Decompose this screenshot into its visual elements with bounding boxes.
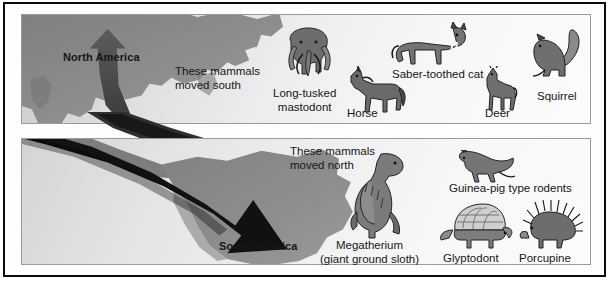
guinea-pig-rodent-icon — [455, 150, 517, 188]
caption-moved-south-line1: These mammals — [175, 65, 260, 77]
label-megatherium-line1: Megatherium — [336, 239, 403, 251]
label-south-america: South America — [219, 240, 298, 253]
squirrel-icon — [525, 24, 583, 84]
figure-frame: North America South America These mammal… — [3, 2, 606, 277]
deer-icon — [475, 66, 519, 114]
label-megatherium: Megatherium (giant ground sloth) — [320, 238, 419, 266]
label-mastodont-line2: mastodont — [273, 100, 336, 114]
megatherium-icon — [345, 150, 415, 240]
horse-icon — [343, 66, 409, 118]
label-glyptodont: Glyptodont — [443, 251, 499, 265]
porcupine-icon — [517, 200, 583, 250]
label-north-america: North America — [63, 51, 140, 64]
label-mastodont-line1: Long-tusked — [273, 87, 336, 99]
caption-moved-south-line2: moved south — [175, 79, 241, 91]
label-long-tusked-mastodont: Long-tusked mastodont — [273, 86, 336, 114]
saber-toothed-cat-icon — [391, 20, 469, 70]
label-porcupine: Porcupine — [519, 251, 571, 265]
label-megatherium-line2: (giant ground sloth) — [320, 252, 419, 266]
caption-moved-south: These mammals moved south — [175, 64, 260, 92]
mastodont-icon — [277, 22, 339, 84]
glyptodont-icon — [437, 200, 513, 250]
label-squirrel: Squirrel — [537, 89, 577, 103]
